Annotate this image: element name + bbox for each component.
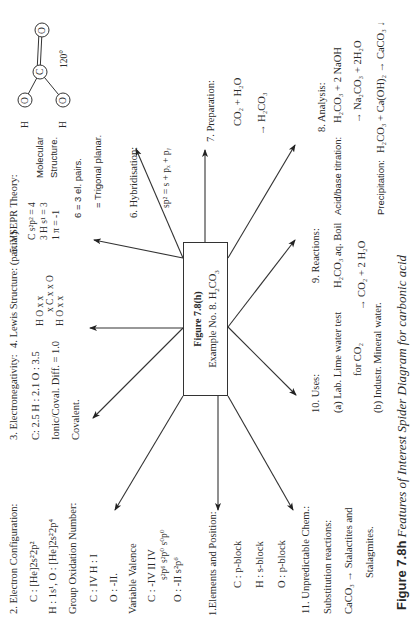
arrow-to-unpredictable [228, 396, 293, 510]
s2-heading: 2. Electron Configuration: [8, 503, 20, 614]
center-title: Figure 7.8(h) [192, 243, 203, 395]
s2-line4: C : IV H : I [88, 554, 100, 602]
s11-line3: Stalagmites. [364, 526, 376, 578]
s5-structure-label1: Molecular [34, 137, 46, 178]
s8-precip-eq: H₂CO₃ + Ca(OH)₂ → CaCO₃ ↓ [375, 21, 387, 153]
s6-heading: 6. Hybridisation: [128, 147, 140, 218]
s7-line1: CO₂ + H₂O [232, 78, 244, 126]
s2-line1: C : [He]2s²2p² [28, 541, 40, 602]
s1-line3: O : p-block [276, 540, 288, 588]
bond-angle: 120° [58, 50, 70, 68]
s5-line5: = Trigonal planar. [92, 135, 104, 208]
s9-heading: 9. Reactions: [310, 228, 322, 283]
atom-c: C [34, 69, 46, 75]
arrow-to-electronegativity [93, 328, 183, 418]
s5-line2: 3 H s¹ = 3 [38, 202, 50, 240]
s1-line2: H : s-block [254, 541, 266, 588]
s9-line1: H₂CO₃ aq. Boil [332, 223, 344, 288]
arrow-to-electron-config [115, 396, 183, 510]
s8-heading: 8. Analysis: [316, 82, 328, 132]
atom-o-left: O [19, 97, 31, 104]
caption-text: Features of Interest Spider Diagram for … [394, 255, 409, 537]
figure-caption: Figure 7.8h Features of Interest Spider … [394, 255, 410, 610]
s2-line6: Variable Valence [127, 543, 139, 614]
s6-line1: sp² = s + pₓ + pᵧ [160, 148, 172, 208]
s2-valence-o: O : -II s²p⁶ [172, 557, 184, 602]
s1-line1: C : p-block [232, 541, 244, 588]
s7-heading: 7. Preparation: [205, 80, 217, 142]
atom-o-top: O [36, 27, 48, 34]
s2-line5: O : -II. [108, 573, 120, 602]
arrow-to-uses [228, 327, 296, 395]
arrow-to-reactions [228, 240, 295, 327]
s9-line2: → CO₂ + 2 H₂O [356, 241, 368, 310]
s10-line1: (a) Lab. Lime water test [332, 312, 344, 413]
s11-line2: CaCO₃ → Stalactites and [343, 507, 355, 614]
s5-heading: 5. VSEPR Theory: [8, 174, 20, 253]
s2-valence-c: C : -IV II IV [146, 549, 158, 602]
s10-line3: (b) Industr. Mineral water. [372, 302, 384, 413]
s5-structure-label2: Structure. [48, 137, 60, 178]
s5-line3: 1 π = -1 [50, 210, 62, 240]
spider-diagram: O C O O H H 120° Figure 7.8(h) Example N… [0, 0, 414, 628]
center-topic-box: Figure 7.8(h) Example No. 8. H2CO3 [183, 242, 228, 396]
center-subtitle: Example No. 8. H2CO3 [207, 243, 218, 395]
s5-line4: 6 = 3 el. pairs. [72, 158, 84, 218]
s5-line1: C s²p² = 4 [26, 202, 38, 240]
s1-heading: 1.Elements and Position: [207, 511, 219, 616]
atom-o-right: O [57, 97, 69, 104]
s10-line2: for CO₂ [352, 343, 364, 376]
arrow-to-vsepr [94, 240, 183, 258]
s11-line1: Substitution reactions: [322, 520, 334, 614]
s10-heading: 10. Uses: [310, 374, 322, 413]
s8-precip-label: Precipitation: [375, 160, 387, 215]
s11-heading: 11. Unpredictable Chem.: [300, 506, 312, 614]
s8-titration-eq2: → Na₂CO₃ + 2H₂O [352, 40, 364, 123]
caption-label: Figure 7.8h [394, 541, 409, 610]
s8-titration-eq1: H₂CO₃ + 2 NaOH [332, 47, 344, 123]
s7-line2: → H₂CO₃ [256, 92, 268, 135]
s8-titration-label: Acid/base titration: [332, 137, 344, 215]
s3-heading: 3. Electronegativity: [8, 354, 20, 440]
s2-valence-c-config: s²p⁶ s²p⁰ s⁰p⁰ [158, 529, 170, 580]
s3-line1: C: 2.5 H : 2.1 O : 3.5 [30, 351, 42, 440]
s2-line3: Group Oxidation Number: [67, 503, 79, 614]
s3-line3: Covalent. [70, 399, 82, 440]
atom-h-left: H [19, 121, 31, 128]
arrow-to-analysis [228, 145, 295, 258]
atom-h-right: H [57, 121, 69, 128]
s4-row2: H O x x [54, 296, 66, 326]
s3-line2: Ionic/Coval. Diff. = 1.0 [50, 341, 62, 440]
s2-line2: H : 1s¹, O : [He]2s²2p⁴ [47, 519, 59, 614]
